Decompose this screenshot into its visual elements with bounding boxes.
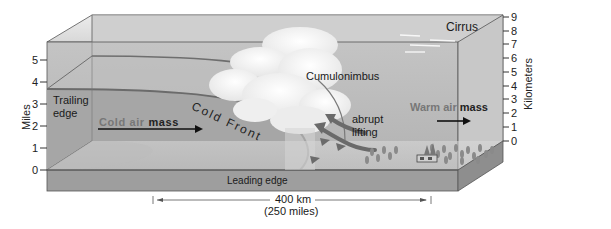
- left-tick-5: 5: [32, 54, 38, 66]
- trailing-edge-label-2: edge: [53, 108, 77, 119]
- right-tick-3: 3: [511, 93, 517, 105]
- right-tick-5: 5: [511, 66, 517, 78]
- left-axis: [40, 60, 47, 170]
- abrupt-label: abrupt: [352, 114, 383, 125]
- distance-miles-label: (250 miles): [264, 206, 318, 217]
- left-axis-title: Miles: [20, 104, 32, 130]
- cirrus-label: Cirrus: [446, 21, 478, 33]
- cold-air-mass-label: Cold air mass: [99, 117, 179, 128]
- cumulonimbus-label: Cumulonimbus: [306, 71, 379, 82]
- left-tick-0: 0: [32, 164, 38, 176]
- distance-km-label: 400 km: [275, 194, 311, 205]
- left-tick-1: 1: [32, 142, 38, 154]
- trailing-edge-label-1: Trailing: [53, 95, 89, 106]
- warm-air-mass-label: Warm air mass: [410, 102, 488, 113]
- right-tick-9: 9: [511, 11, 517, 23]
- right-tick-4: 4: [511, 80, 517, 92]
- right-tick-1: 1: [511, 121, 517, 133]
- cold-mass-word: mass: [148, 116, 179, 128]
- right-tick-6: 6: [511, 52, 517, 64]
- warm-mass-word: mass: [460, 101, 488, 113]
- warm-air-word: Warm air: [410, 101, 457, 113]
- cold-air-word: Cold air: [99, 116, 145, 128]
- right-tick-2: 2: [511, 107, 517, 119]
- left-tick-3: 3: [32, 98, 38, 110]
- right-axis-title: Kilometers: [522, 58, 534, 110]
- right-tick-0: 0: [511, 135, 517, 147]
- left-tick-4: 4: [32, 76, 38, 88]
- right-axis: [503, 17, 509, 141]
- left-tick-2: 2: [32, 120, 38, 132]
- right-tick-7: 7: [511, 38, 517, 50]
- lifting-label: lifting: [352, 127, 378, 138]
- right-tick-8: 8: [511, 25, 517, 37]
- leading-edge-label: Leading edge: [227, 176, 288, 186]
